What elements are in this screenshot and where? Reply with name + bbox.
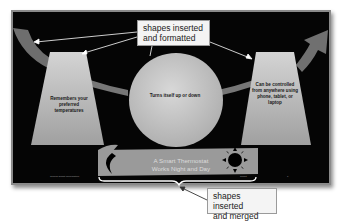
- callout-top-line2: and formatted: [143, 33, 204, 43]
- slide-page-number: 1: [287, 175, 288, 178]
- banner-line1: A Smart Thermostat: [136, 157, 226, 165]
- connector-right: [218, 80, 254, 96]
- banner-line2: Works Night and Day: [136, 165, 226, 173]
- banner-title: A Smart Thermostat Works Night and Day: [136, 157, 226, 173]
- center-circle-shape: [129, 53, 223, 147]
- slide-footer-left: Gemini Smart Corporation: [50, 175, 79, 178]
- callout-bottom-line1: shapes inserted: [213, 191, 271, 211]
- callout-shapes-inserted-formatted: shapes inserted and formatted: [137, 20, 210, 46]
- slide-footer-right: Smart: [240, 175, 247, 178]
- center-shape-text: Turns itself up or down: [145, 93, 205, 99]
- left-shape-text: Remembers your preferred temperatures: [44, 96, 94, 114]
- callout-top-line1: shapes inserted: [143, 23, 204, 33]
- curved-arrow-right: [296, 30, 328, 72]
- right-shape-text: Can be controlled from anywhere using ph…: [250, 82, 300, 106]
- brace-bracket: [99, 177, 256, 185]
- curved-arrow-left: [13, 28, 50, 68]
- callout-shapes-inserted-merged: shapes inserted and merged: [207, 188, 277, 214]
- callout-bottom-line2: and merged: [213, 211, 271, 221]
